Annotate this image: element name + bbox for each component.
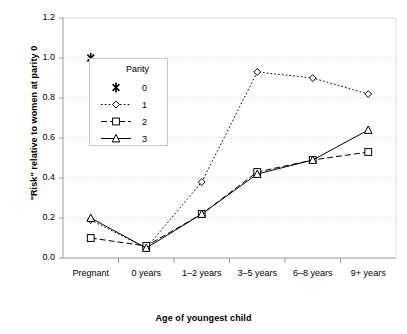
y-tick-label: 0.4 (27, 172, 55, 182)
legend-item-parity-3: 3 (90, 130, 169, 147)
series-parity-2 (87, 149, 371, 250)
y-tick-label: 0.2 (27, 212, 55, 222)
legend-item-parity-2: 2 (90, 113, 169, 130)
legend: Parity 0123 (89, 58, 168, 146)
chart-container: "Risk" relative to women at parity 0 Age… (0, 0, 407, 334)
x-tick-label: 9+ years (330, 268, 406, 278)
y-tick-label: 0.6 (27, 132, 55, 142)
y-tick-label: 0.8 (27, 92, 55, 102)
legend-marker-x-icon (90, 79, 138, 96)
legend-item-label: 1 (138, 100, 169, 110)
legend-marker-diamond-icon (90, 96, 138, 113)
legend-item-label: 0 (138, 83, 169, 93)
legend-item-label: 3 (138, 134, 169, 144)
y-tick-label: 1.0 (27, 52, 55, 62)
y-tick-label: 0.0 (27, 252, 55, 262)
y-axis-title: "Risk" relative to women at parity 0 (29, 3, 39, 243)
legend-item-parity-0: 0 (90, 79, 169, 96)
y-tick-label: 1.2 (27, 12, 55, 22)
legend-title: Parity (90, 64, 169, 74)
x-axis-title: Age of youngest child (0, 313, 407, 323)
legend-marker-square-icon (90, 113, 138, 130)
legend-marker-triangle-icon (90, 130, 138, 147)
legend-item-parity-1: 1 (90, 96, 169, 113)
x-axis-ticks (119, 258, 341, 263)
legend-item-label: 2 (138, 117, 169, 127)
chart-plot-area (0, 0, 407, 334)
y-axis-ticks (59, 18, 63, 258)
